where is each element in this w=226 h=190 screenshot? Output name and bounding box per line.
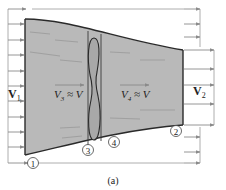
propeller-stream-tube-diagram: V1 V2 V3 ≈ V V4 ≈ V 1 2 3 4 (a): [0, 0, 226, 190]
v2-label: V2: [193, 84, 206, 100]
svg-text:4: 4: [112, 138, 117, 148]
station-1-marker: 1: [28, 158, 39, 169]
svg-text:1: 1: [31, 159, 36, 169]
svg-text:3: 3: [86, 146, 91, 156]
station-2-marker: 2: [171, 126, 182, 137]
station-3-marker: 3: [83, 145, 94, 156]
svg-text:2: 2: [174, 127, 179, 137]
stream-tube: [25, 19, 183, 155]
v1-label: V1: [8, 87, 21, 103]
station-4-marker: 4: [109, 137, 120, 148]
figure-caption: (a): [107, 175, 118, 187]
